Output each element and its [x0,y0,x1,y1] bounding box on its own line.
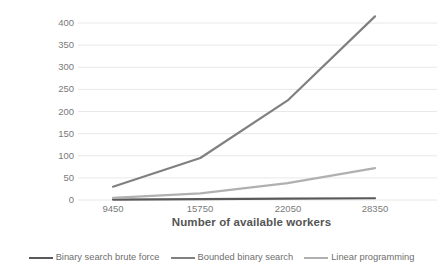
gridlines [78,23,437,200]
x-tick-label: 9450 [78,203,148,214]
x-tick-label: 15750 [165,203,235,214]
data-series-lines [113,16,375,199]
legend-label: Linear programming [331,252,414,263]
plot-area [0,0,443,280]
line-chart: Execution time (s) 400 350 300 250 200 1… [0,0,443,280]
legend-swatch-icon [29,257,53,259]
x-tick-label: 22050 [253,203,323,214]
legend-item-linear-programming: Linear programming [304,252,414,263]
legend-label: Binary search brute force [56,252,160,263]
legend-swatch-icon [171,257,195,259]
legend-item-bounded-binary-search: Bounded binary search [171,252,294,263]
x-tick-label: 28350 [340,203,410,214]
chart-legend: Binary search brute force Bounded binary… [0,252,443,263]
legend-label: Bounded binary search [198,252,294,263]
legend-item-binary-search-brute-force: Binary search brute force [29,252,160,263]
x-axis-title: Number of available workers [60,216,443,228]
legend-swatch-icon [304,257,328,259]
